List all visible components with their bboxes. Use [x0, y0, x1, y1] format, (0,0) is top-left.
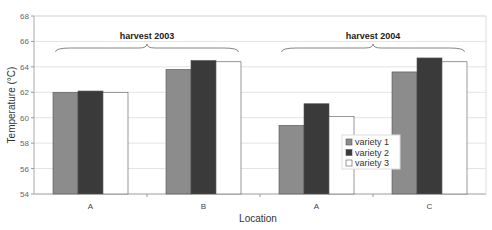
bar	[392, 72, 417, 194]
x-axis-label: Location	[239, 213, 277, 224]
x-tick-label: C	[427, 202, 433, 211]
legend-label: variety 2	[355, 148, 389, 158]
bar	[442, 62, 467, 194]
x-tick-label: A	[88, 202, 94, 211]
legend: variety 1variety 2variety 3	[342, 135, 400, 169]
group-label: harvest 2003	[120, 31, 175, 41]
bar	[166, 69, 191, 194]
legend-swatch	[346, 139, 352, 145]
y-tick-label: 62	[20, 88, 29, 97]
bar	[304, 104, 329, 194]
bar	[103, 92, 128, 194]
bar	[279, 125, 304, 194]
legend-label: variety 1	[355, 137, 389, 147]
bar	[191, 61, 216, 195]
legend-swatch	[346, 150, 352, 156]
x-tick-label: B	[201, 202, 206, 211]
bars	[53, 58, 467, 194]
group-label: harvest 2004	[346, 31, 401, 41]
y-tick-label: 56	[20, 165, 29, 174]
bar	[417, 58, 442, 194]
y-axis-label: Temperature (°C)	[6, 67, 17, 144]
y-tick-label: 66	[20, 37, 29, 46]
bar-chart: 5456586062646668 ABAC harvest 2003harves…	[0, 0, 492, 230]
y-tick-label: 64	[20, 63, 29, 72]
y-axis-ticks: 5456586062646668	[20, 12, 34, 199]
bar	[53, 92, 78, 194]
x-tick-label: A	[314, 202, 320, 211]
group-brace	[56, 44, 239, 52]
y-tick-label: 54	[20, 190, 29, 199]
group-brace	[282, 44, 465, 52]
group-braces: harvest 2003harvest 2004	[56, 29, 465, 52]
legend-label: variety 3	[355, 158, 389, 168]
bar	[78, 91, 103, 194]
y-tick-label: 60	[20, 114, 29, 123]
y-tick-label: 68	[20, 12, 29, 21]
bar	[216, 62, 241, 194]
y-tick-label: 58	[20, 139, 29, 148]
x-axis-ticks: ABAC	[88, 194, 433, 211]
legend-swatch	[346, 160, 352, 166]
